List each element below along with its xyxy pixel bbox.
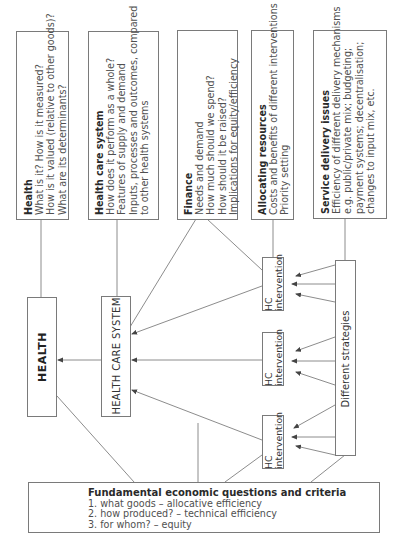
allocating-resources-topic-box: Allocating resources Costs and benefits …: [251, 30, 294, 220]
hc-intervention-line2: intervention: [274, 415, 284, 469]
different-strategies-label: Different strategies: [339, 261, 353, 457]
allocating-topic-title: Allocating resources: [257, 3, 268, 215]
economics-framework-diagram: Health What is it? How is it measured? H…: [0, 0, 400, 546]
finance-topic-line: Needs and demand: [194, 58, 205, 215]
allocating-topic-line: Priority setting: [279, 3, 290, 215]
health-topic-line: What is it? How is it measured?: [34, 13, 45, 215]
hc-intervention-box: HC intervention: [262, 415, 284, 469]
health-box: HEALTH: [27, 297, 57, 417]
fundamental-title: Fundamental economic questions and crite…: [88, 488, 346, 499]
service-delivery-topic-line: e.g. public/private mix; budgeting;: [342, 7, 353, 215]
finance-topic-line: How much should we spend?: [205, 58, 216, 215]
health-topic-box: Health What is it? How is it measured? H…: [16, 31, 69, 220]
hcs-topic-line: to other health systems: [139, 6, 150, 215]
hcs-topic-title: Health care system: [94, 6, 105, 215]
finance-topic-title: Finance: [183, 58, 194, 215]
hc-intervention-line2: intervention: [274, 257, 284, 311]
health-label: HEALTH: [36, 297, 50, 417]
health-topic-line: What are its determinants?: [57, 13, 68, 215]
fundamental-line: 3. for whom? – equity: [88, 520, 346, 531]
health-topic-title: Health: [23, 13, 34, 215]
finance-topic-box: Finance Needs and demand How much should…: [177, 30, 238, 220]
finance-topic-line: How should it be raised?: [217, 58, 228, 215]
hcs-topic-line: Features of supply and demand: [116, 6, 127, 215]
health-care-system-box: HEALTH CARE SYSTEM: [101, 296, 131, 417]
allocating-topic-line: Costs and benefits of different interven…: [268, 3, 279, 215]
health-care-system-label: HEALTH CARE SYSTEM: [110, 296, 124, 417]
hc-intervention-line2: intervention: [274, 332, 284, 386]
fundamental-questions-box: Fundamental economic questions and crite…: [28, 482, 380, 533]
hc-intervention-box: HC intervention: [262, 257, 284, 311]
service-delivery-topic-title: Service delivery issues: [320, 7, 331, 215]
service-delivery-topic-line: payment systems; decentralisation;: [354, 7, 365, 215]
health-care-system-topic-box: Health care system How does it perform a…: [88, 31, 159, 220]
hcs-topic-line: How does it perform as a whole?: [105, 6, 116, 215]
service-delivery-topic-line: Efficiency of different delivery mechani…: [331, 7, 342, 215]
hcs-topic-line: Inputs, processes and outcomes, compared: [128, 6, 139, 215]
different-strategies-box: Different strategies: [335, 260, 356, 456]
service-delivery-topic-box: Service delivery issues Efficiency of di…: [313, 30, 387, 219]
finance-topic-line: Implications for equity/efficiency: [228, 58, 239, 215]
service-delivery-topic-line: changes to input mix, etc.: [365, 7, 376, 215]
health-topic-line: How is it valued (relative to other good…: [45, 13, 56, 215]
hc-intervention-box: HC intervention: [262, 332, 284, 386]
